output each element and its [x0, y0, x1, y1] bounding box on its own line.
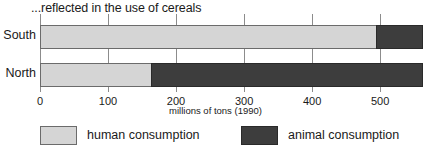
bar-segment-north-human: [40, 63, 152, 87]
bar-segment-north-animal: [151, 63, 423, 87]
plot-area: [40, 14, 423, 92]
legend-swatch-human-icon: [40, 126, 77, 145]
bar-segment-south-animal: [376, 25, 423, 49]
category-label-north: North: [5, 66, 36, 80]
legend-item-human: human consumption: [40, 124, 200, 146]
chart-legend: human consumption animal consumption: [0, 124, 431, 149]
chart-title: ...reflected in the use of cereals: [31, 1, 201, 15]
x-axis-title: millions of tons (1990): [0, 105, 431, 116]
legend-item-animal: animal consumption: [241, 124, 399, 146]
legend-label-animal: animal consumption: [288, 128, 399, 142]
bar-row-south: [40, 25, 423, 49]
category-label-south: South: [3, 28, 36, 42]
bar-segment-south-human: [40, 25, 377, 49]
bar-row-north: [40, 63, 423, 87]
legend-label-human: human consumption: [87, 128, 200, 142]
category-axis: South North: [0, 14, 36, 92]
legend-swatch-animal-icon: [241, 126, 278, 145]
cereal-consumption-chart: ...reflected in the use of cereals South…: [0, 0, 431, 149]
